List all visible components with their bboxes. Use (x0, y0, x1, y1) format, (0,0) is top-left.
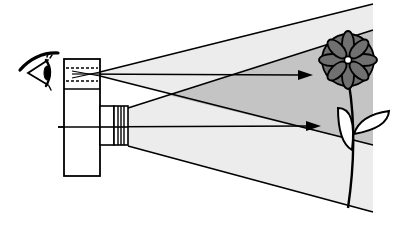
eye-icon (20, 53, 58, 90)
parallax-diagram (0, 0, 406, 226)
lens (100, 106, 128, 145)
